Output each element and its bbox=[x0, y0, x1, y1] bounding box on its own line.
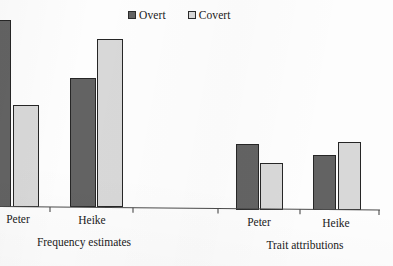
category-label-trait-heike: Heike bbox=[306, 217, 366, 229]
bar-freq-peter-covert bbox=[13, 105, 39, 207]
bar-freq-heike-covert bbox=[97, 39, 123, 207]
bar-freq-heike-overt bbox=[70, 78, 96, 207]
category-label-freq-heike: Heike bbox=[62, 214, 122, 226]
bar-trait-peter-covert bbox=[260, 163, 283, 210]
panel-label-frequency-estimates: Frequency estimates bbox=[0, 236, 174, 248]
bar-trait-heike-overt bbox=[313, 155, 336, 210]
category-label-freq-peter: Peter bbox=[0, 213, 48, 225]
bar-trait-heike-covert bbox=[338, 142, 361, 210]
bar-trait-peter-overt bbox=[236, 144, 259, 210]
bar-freq-peter-overt bbox=[0, 20, 11, 207]
panel-label-trait-attributions: Trait attributions bbox=[215, 239, 393, 251]
category-label-trait-peter: Peter bbox=[229, 216, 289, 228]
bar-chart-figure: Overt Covert Peter Heike Peter Heike Fre… bbox=[0, 0, 393, 266]
